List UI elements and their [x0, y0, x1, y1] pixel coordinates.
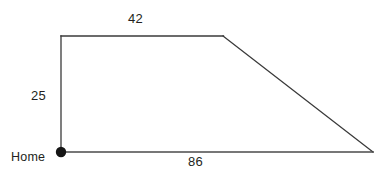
- side-length-label-bottom: 86: [188, 155, 203, 168]
- side-length-label-left: 25: [31, 89, 46, 102]
- side-length-label-top: 42: [128, 12, 143, 25]
- edge-slant-side: [223, 36, 373, 152]
- home-point-label: Home: [11, 151, 45, 164]
- diagram-canvas: 42 25 86 Home: [0, 0, 389, 175]
- trapezoid-figure: [0, 0, 389, 175]
- home-vertex-dot: [56, 147, 66, 157]
